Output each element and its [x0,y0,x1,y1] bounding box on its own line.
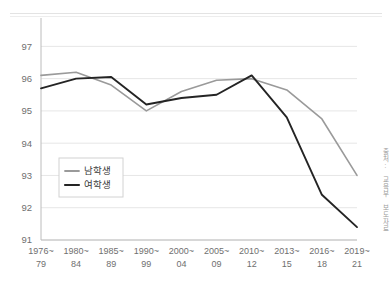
x-axis-tick-label-second-line: 84 [71,259,81,269]
x-axis-tick-label-second-line: 99 [141,259,151,269]
x-axis-tick-label-second-line: 79 [36,259,46,269]
x-axis-tick-label-second-line: 18 [317,259,327,269]
x-axis-tick-label-second-line: 09 [212,259,222,269]
legend-label-1: 남학생 [84,165,111,176]
y-axis-tick-label: 94 [21,138,32,149]
chart-plot-area: 919293949596971976~791980~841985~891990~… [0,0,392,293]
x-axis-tick-label-second-line: 21 [352,259,362,269]
x-axis-tick-label: 2013~ [274,246,299,256]
legend-box [59,158,123,197]
x-axis-tick-label: 1990~ [134,246,159,256]
source-note: 출처: 교육부 보도자료 [380,148,390,232]
legend-label-2: 여학생 [84,179,111,190]
y-axis-tick-label: 95 [21,105,32,116]
x-axis-tick-label: 2010~ [239,246,264,256]
x-axis-tick-label: 2016~ [309,246,334,256]
y-axis-tick-label: 96 [21,73,32,84]
x-axis-tick-label: 1976~ [28,246,53,256]
line-chart: 919293949596971976~791980~841985~891990~… [0,0,392,293]
y-axis-tick-label: 91 [21,234,32,245]
x-axis-tick-label-second-line: 04 [176,259,186,269]
x-axis-tick-label: 1985~ [99,246,124,256]
y-axis-tick-label: 93 [21,170,32,181]
x-axis-tick-label: 1980~ [63,246,88,256]
y-axis-tick-label: 97 [21,41,32,52]
x-axis-tick-label-second-line: 89 [106,259,116,269]
x-axis-tick-label: 2005~ [204,246,229,256]
x-axis-tick-label: 2019~ [344,246,369,256]
series-line-2 [41,75,357,227]
y-axis-tick-label: 92 [21,202,32,213]
x-axis-tick-label-second-line: 15 [282,259,292,269]
x-axis-tick-label-second-line: 12 [247,259,257,269]
figure-container: 919293949596971976~791980~841985~891990~… [0,0,392,293]
x-axis-tick-label: 2000~ [169,246,194,256]
